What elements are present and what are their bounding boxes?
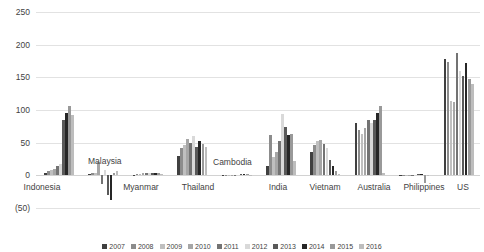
plot-area: [36, 12, 480, 208]
bar: [101, 175, 104, 184]
y-axis-tick-label: 250: [0, 8, 30, 17]
legend-label: 2007: [109, 243, 125, 250]
x-axis-category-label: Indonesia: [24, 183, 61, 192]
bar-cluster: [133, 12, 164, 208]
legend-item[interactable]: 2008: [131, 243, 154, 250]
y-axis-tick-label: 200: [0, 41, 30, 50]
gridline: [36, 208, 480, 209]
x-axis-category-label: Vietnam: [309, 183, 340, 192]
legend-item[interactable]: 2009: [160, 243, 183, 250]
y-axis-tick-label: 50: [0, 139, 30, 148]
bar-clusters: [36, 12, 480, 208]
legend: 2007200820092010201120122013201420152016: [0, 243, 484, 250]
bar-cluster: [310, 12, 341, 208]
legend-item[interactable]: 2010: [188, 243, 211, 250]
legend-label: 2010: [195, 243, 211, 250]
y-axis-tick-label: (50): [0, 204, 30, 213]
legend-swatch: [273, 244, 278, 249]
inline-category-label: Malaysia: [88, 157, 122, 166]
legend-item[interactable]: 2015: [330, 243, 353, 250]
legend-label: 2014: [309, 243, 325, 250]
legend-swatch: [102, 244, 107, 249]
bar-cluster: [355, 12, 386, 208]
legend-swatch: [302, 244, 307, 249]
bar: [160, 174, 163, 175]
legend-swatch: [188, 244, 193, 249]
legend-swatch: [160, 244, 165, 249]
x-axis-category-label: Philippines: [403, 183, 444, 192]
y-axis-tick-label: 0: [0, 171, 30, 180]
legend-label: 2009: [167, 243, 183, 250]
bar-cluster: [399, 12, 430, 208]
legend-swatch: [217, 244, 222, 249]
x-axis-category-label: Myanmar: [123, 183, 158, 192]
bar: [471, 84, 474, 175]
bar-cluster: [177, 12, 208, 208]
bar: [427, 175, 430, 176]
bar-cluster: [266, 12, 297, 208]
bar-cluster: [44, 12, 75, 208]
inline-category-label: Cambodia: [213, 158, 252, 167]
legend-label: 2013: [280, 243, 296, 250]
legend-item[interactable]: 2014: [302, 243, 325, 250]
legend-item[interactable]: 2013: [273, 243, 296, 250]
bar-cluster: [88, 12, 119, 208]
bar: [71, 115, 74, 175]
x-axis-category-label: India: [269, 183, 287, 192]
legend-label: 2011: [224, 243, 239, 250]
legend-item[interactable]: 2012: [245, 243, 268, 250]
bar: [338, 174, 341, 175]
bar: [249, 175, 252, 176]
bar: [110, 175, 113, 200]
y-axis-tick-label: 150: [0, 73, 30, 82]
legend-label: 2015: [337, 243, 353, 250]
bar: [205, 147, 208, 176]
legend-label: 2008: [138, 243, 154, 250]
x-axis-category-label: US: [457, 183, 469, 192]
bar-cluster: [444, 12, 475, 208]
bar: [382, 173, 385, 176]
x-axis-category-label: Thailand: [182, 183, 215, 192]
legend-item[interactable]: 2007: [102, 243, 125, 250]
legend-swatch: [131, 244, 136, 249]
y-axis-labels: 250200150100500(50): [0, 12, 32, 208]
x-axis-category-label: Australia: [357, 183, 390, 192]
legend-item[interactable]: 2016: [359, 243, 382, 250]
legend-label: 2016: [366, 243, 382, 250]
bar: [116, 171, 119, 175]
y-axis-tick-label: 100: [0, 106, 30, 115]
legend-swatch: [245, 244, 250, 249]
legend-item[interactable]: 2011: [217, 243, 239, 250]
bar-chart: 250200150100500(50) MalaysiaCambodia Ind…: [0, 0, 484, 252]
legend-swatch: [359, 244, 364, 249]
legend-swatch: [330, 244, 335, 249]
bar: [379, 106, 382, 175]
bar-cluster: [222, 12, 253, 208]
legend-label: 2012: [252, 243, 268, 250]
bar: [293, 161, 296, 175]
